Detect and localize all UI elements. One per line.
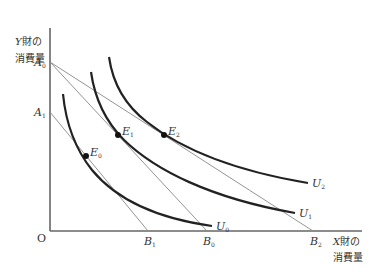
point-e0 xyxy=(83,153,89,159)
x-axis-label: X財の 消費量 xyxy=(332,235,363,263)
label-e1: E1 xyxy=(121,125,134,138)
label-e0: E0 xyxy=(89,146,102,159)
svg-text:X財の: X財の xyxy=(332,235,360,247)
point-e1 xyxy=(115,132,121,138)
label-a1: A1 xyxy=(33,106,46,119)
indifference-curves xyxy=(63,57,308,226)
label-u0: U0 xyxy=(216,220,229,233)
budget-line-a1-b1 xyxy=(50,112,148,231)
indifference-curve-diagram: Y財の 消費量 X財の 消費量 O A0 A1 B1 B0 B2 U0 U1 U… xyxy=(0,0,382,274)
axes xyxy=(50,28,362,231)
svg-text:Y財の: Y財の xyxy=(15,35,42,47)
label-b2: B2 xyxy=(309,235,322,248)
label-b0: B0 xyxy=(202,235,215,248)
budget-line-a0-b0 xyxy=(50,62,207,231)
label-e2: E2 xyxy=(167,125,180,138)
label-b1: B1 xyxy=(143,235,156,248)
label-u2: U2 xyxy=(312,177,325,190)
label-u1: U1 xyxy=(299,207,312,220)
origin-label: O xyxy=(37,232,46,245)
svg-text:消費量: 消費量 xyxy=(333,251,363,263)
point-e2 xyxy=(161,132,167,138)
